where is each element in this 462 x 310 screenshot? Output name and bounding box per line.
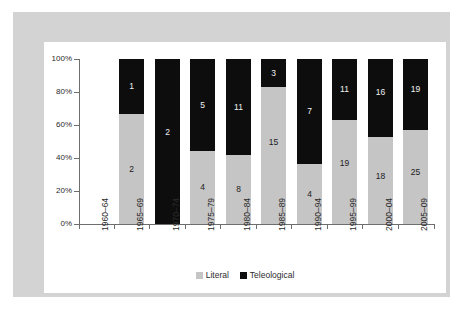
segment-value-label: 16 [368, 87, 393, 96]
segment-value-label: 11 [226, 102, 251, 111]
segment-teleological[interactable]: 1 [119, 59, 144, 114]
x-axis-tick [114, 225, 115, 229]
x-axis-line [79, 224, 435, 225]
y-axis-tick [74, 92, 79, 93]
x-axis-tick [220, 225, 221, 229]
x-axis-tick [434, 225, 435, 229]
x-axis-category-1970-74: 1970–74 [172, 171, 181, 231]
chart-screenshot: 100% 80% 60% 40% 20% 0% [0, 0, 462, 310]
segment-teleological[interactable]: 5 [190, 59, 215, 151]
segment-teleological[interactable]: 3 [261, 59, 286, 87]
x-axis-tick [327, 225, 328, 229]
x-axis-category-2005-09: 2005–09 [420, 171, 429, 231]
segment-value-label: 19 [332, 159, 357, 168]
legend-swatch-teleological-icon [240, 272, 247, 279]
x-axis-category-1975-79: 1975–79 [207, 171, 216, 231]
x-axis-tick [398, 225, 399, 229]
chart-legend: Literal Teleological [44, 271, 446, 280]
segment-value-label: 19 [403, 84, 428, 93]
segment-value-label: 2 [155, 127, 180, 136]
plot-area: 100% 80% 60% 40% 20% 0% [44, 42, 446, 293]
segment-teleological[interactable]: 16 [368, 59, 393, 137]
x-axis-tick [256, 225, 257, 229]
segment-value-label: 11 [332, 85, 357, 94]
x-axis-category-1985-89: 1985–89 [278, 171, 287, 231]
segment-value-label: 3 [261, 68, 286, 77]
x-axis-tick [149, 225, 150, 229]
x-axis-category-1990-94: 1990–94 [314, 171, 323, 231]
x-axis-category-1965-69: 1965–69 [136, 171, 145, 231]
x-axis-tick [185, 225, 186, 229]
y-axis-label-text: 20% [46, 187, 72, 195]
segment-teleological[interactable]: 19 [403, 59, 428, 130]
legend-item-literal[interactable]: Literal [196, 271, 229, 280]
y-axis-label-text: 60% [46, 121, 72, 129]
segment-value-label: 5 [190, 100, 215, 109]
y-axis-tick [74, 191, 79, 192]
x-axis-tick [291, 225, 292, 229]
x-axis-category-1980-84: 1980–84 [243, 171, 252, 231]
y-axis-label-20: 20% [44, 187, 72, 195]
segment-value-label: 1 [119, 82, 144, 91]
y-axis-tick [74, 125, 79, 126]
y-axis-label-80: 80% [44, 88, 72, 96]
y-axis-label-60: 60% [44, 121, 72, 129]
x-axis-tick [362, 225, 363, 229]
segment-teleological[interactable]: 11 [332, 59, 357, 120]
y-axis-label-40: 40% [44, 154, 72, 162]
y-axis-tick [74, 158, 79, 159]
segment-teleological[interactable]: 11 [226, 59, 251, 155]
y-axis-label-0: 0% [44, 220, 72, 228]
y-axis-label-100: 100% [44, 55, 72, 63]
y-axis-label-text: 0% [46, 220, 72, 228]
chart-frame-border: 100% 80% 60% 40% 20% 0% [13, 12, 450, 297]
segment-value-label: 15 [261, 137, 286, 146]
x-axis-category-2000-04: 2000–04 [385, 171, 394, 231]
legend-label-teleological: Teleological [250, 271, 294, 280]
y-axis-tick [74, 59, 79, 60]
segment-value-label: 7 [297, 107, 322, 116]
y-axis-label-text: 100% [46, 55, 72, 63]
legend-swatch-literal-icon [196, 272, 203, 279]
x-axis-category-1960-64: 1960–64 [101, 171, 110, 231]
x-axis-tick [79, 225, 80, 229]
segment-teleological[interactable]: 7 [297, 59, 322, 164]
y-axis-label-text: 40% [46, 154, 72, 162]
chart-panel: 100% 80% 60% 40% 20% 0% [44, 42, 446, 293]
y-axis-line [79, 59, 80, 224]
y-axis-label-text: 80% [46, 88, 72, 96]
legend-label-literal: Literal [206, 271, 229, 280]
x-axis-category-1995-99: 1995–99 [349, 171, 358, 231]
legend-item-teleological[interactable]: Teleological [240, 271, 294, 280]
